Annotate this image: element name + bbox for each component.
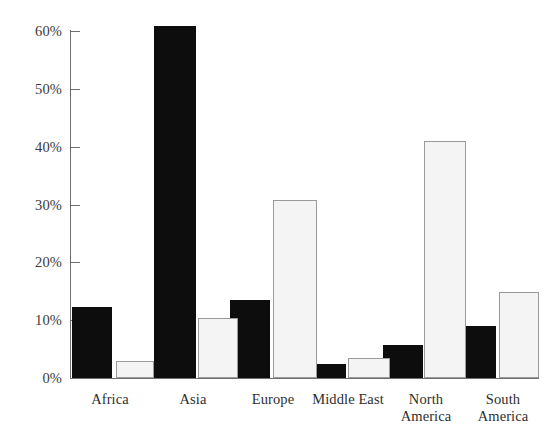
value-axis-tick-mark bbox=[71, 147, 80, 148]
value-axis-tick: 60% bbox=[0, 31, 62, 32]
category-label-africa: Africa bbox=[62, 391, 158, 408]
category-axis-line bbox=[70, 378, 539, 379]
value-axis-tick: 20% bbox=[0, 262, 62, 263]
bar-europe-series-2 bbox=[273, 200, 317, 378]
value-axis-tick-label: 10% bbox=[6, 313, 62, 328]
bar-north-america-series-2 bbox=[424, 141, 466, 378]
value-axis-tick: 10% bbox=[0, 320, 62, 321]
value-axis-tick-mark bbox=[71, 378, 80, 379]
category-label-line1: South bbox=[455, 391, 546, 408]
value-axis-tick-label: 60% bbox=[6, 24, 62, 39]
category-label-line1: Africa bbox=[62, 391, 158, 408]
bar-middle-east-series-2 bbox=[348, 358, 390, 378]
value-axis-tick-mark bbox=[71, 31, 80, 32]
value-axis-tick: 30% bbox=[0, 205, 62, 206]
value-axis-tick-label: 40% bbox=[6, 140, 62, 155]
value-axis-tick-label: 0% bbox=[6, 371, 62, 386]
bar-asia-series-1 bbox=[154, 26, 196, 378]
category-label-south-america: SouthAmerica bbox=[455, 391, 546, 425]
value-axis-tick-mark bbox=[71, 89, 80, 90]
bar-asia-series-2 bbox=[198, 318, 238, 378]
category-label-line2: America bbox=[455, 408, 546, 425]
bar-chart: 60%50%40%30%20%10%0% AfricaAsiaEuropeMid… bbox=[0, 0, 546, 438]
value-axis-tick-mark bbox=[71, 262, 80, 263]
value-axis-tick-label: 50% bbox=[6, 82, 62, 97]
value-axis-tick: 40% bbox=[0, 147, 62, 148]
value-axis-tick: 0% bbox=[0, 378, 62, 379]
value-axis-tick-mark bbox=[71, 205, 80, 206]
bar-south-america-series-2 bbox=[499, 292, 539, 378]
value-axis-tick: 50% bbox=[0, 89, 62, 90]
value-axis-tick-label: 20% bbox=[6, 255, 62, 270]
value-axis-tick-label: 30% bbox=[6, 198, 62, 213]
bar-africa-series-2 bbox=[116, 361, 154, 378]
bar-africa-series-1 bbox=[72, 307, 112, 378]
